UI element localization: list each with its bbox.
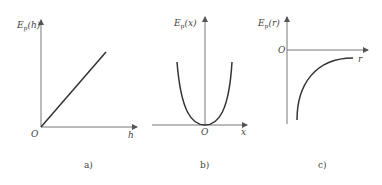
inverse-curve-c [297,58,353,120]
caption-a: a) [84,160,93,170]
xlabel-a: h [128,130,134,140]
caption-c: c) [318,160,327,170]
origin-label-c: O [278,45,286,55]
ylabel-c: Ep(r) [257,18,280,30]
panel-c: Ep(r) O r c) [257,17,368,170]
panel-b: Ep(x) O x b) [152,17,247,170]
linear-curve-a [41,52,106,127]
panel-a: Ep(h) O h a) [16,20,137,170]
xlabel-c: r [358,54,363,64]
ylabel-b: Ep(x) [173,18,197,30]
xlabel-b: x [241,127,246,137]
origin-label-b: O [201,127,209,137]
caption-b: b) [200,160,209,170]
origin-label-a: O [31,129,39,139]
potential-energy-figure: Ep(h) O h a) Ep(x) O x b) Ep(r) O r c) [0,0,382,185]
ylabel-a: Ep(h) [16,20,41,32]
